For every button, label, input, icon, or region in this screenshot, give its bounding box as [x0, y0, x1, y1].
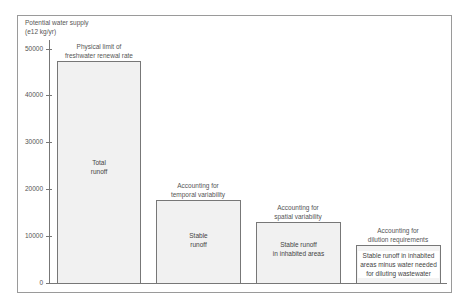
bar-label-line: runoff [58, 167, 140, 176]
y-tick-0 [46, 283, 52, 284]
y-axis-title-line2: (e12 kg/yr) [25, 27, 89, 36]
y-tick-40000 [46, 95, 52, 96]
caption-line: Physical limit of [57, 42, 141, 51]
caption-line: temporal variability [150, 190, 246, 199]
y-tick-label-20000: 20000 [3, 185, 43, 193]
bar-minus-dilution: Stable runoff in inhabited areas minus w… [356, 245, 441, 284]
bar-label-line: Stable runoff in inhabited [358, 251, 439, 260]
bar-label-line: Stable [157, 231, 240, 240]
y-axis-title: Potential water supply (e12 kg/yr) [25, 18, 89, 36]
y-tick-20000 [46, 189, 52, 190]
caption-line: dilution requirements [350, 235, 446, 244]
bar-label: Stable runoff in inhabited areas [257, 240, 340, 258]
bar-label-line: for diluting wastewater [358, 269, 439, 278]
caption-line: spatial variability [250, 212, 346, 221]
bar-label-line: in inhabited areas [257, 249, 340, 258]
bar-label-line: runoff [157, 240, 240, 249]
y-tick-50000 [46, 49, 52, 50]
bar-label: Stable runoff [157, 231, 240, 249]
bar-stable-runoff: Stable runoff [156, 200, 241, 284]
y-tick-label-40000: 40000 [3, 91, 43, 99]
caption-line: freshwater renewal rate [57, 51, 141, 60]
y-tick-10000 [46, 236, 52, 237]
bar-label-line: areas minus water needed [358, 260, 439, 269]
y-axis-title-line1: Potential water supply [25, 18, 89, 27]
caption-line: Accounting for [150, 181, 246, 190]
y-tick-label-50000: 50000 [3, 45, 43, 53]
bar-caption-total-runoff: Physical limit of freshwater renewal rat… [57, 42, 141, 60]
bar-label-line: Total [58, 158, 140, 167]
y-tick-30000 [46, 142, 52, 143]
y-tick-label-10000: 10000 [3, 232, 43, 240]
y-tick-label-30000: 30000 [3, 138, 43, 146]
caption-line: Accounting for [250, 203, 346, 212]
y-tick-label-0: 0 [3, 279, 43, 287]
bar-total-runoff: Total runoff [57, 61, 141, 284]
bar-caption-stable-runoff: Accounting for temporal variability [150, 181, 246, 199]
bar-label: Total runoff [58, 158, 140, 176]
bar-label-line: Stable runoff [257, 240, 340, 249]
bar-caption-inhabited-areas: Accounting for spatial variability [250, 203, 346, 221]
bar-caption-dilution: Accounting for dilution requirements [350, 226, 446, 244]
caption-line: Accounting for [350, 226, 446, 235]
bar-stable-runoff-inhabited: Stable runoff in inhabited areas [256, 222, 341, 284]
y-axis-line [49, 40, 50, 283]
bar-label: Stable runoff in inhabited areas minus w… [358, 251, 439, 278]
